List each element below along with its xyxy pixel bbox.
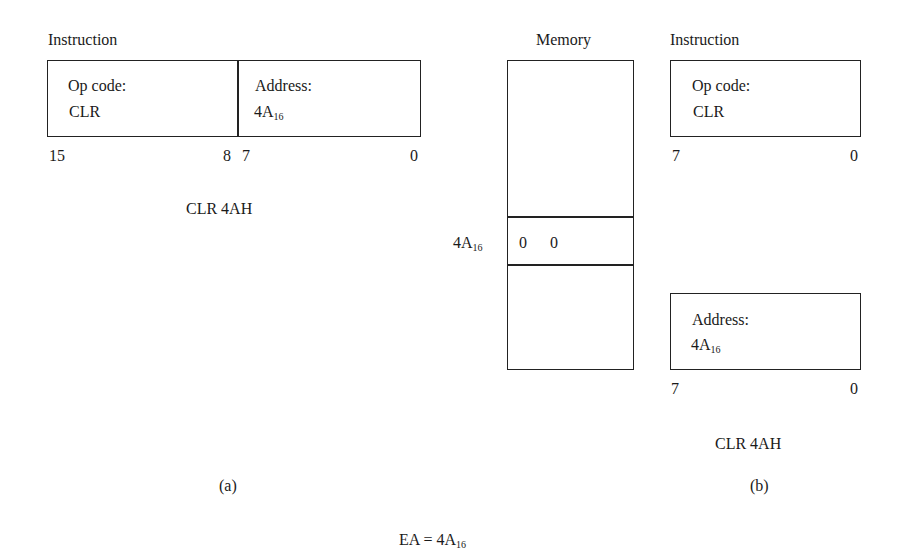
memory-row-value-low: 0 <box>550 233 558 253</box>
memory-row-value-high: 0 <box>519 233 527 253</box>
bit-7-label: 7 <box>242 146 250 166</box>
opcode-value-a: CLR <box>69 102 100 122</box>
opcode-value-b: CLR <box>693 102 724 122</box>
effective-address-equation: EA = 4A16 <box>399 530 466 555</box>
word2-bit-7-label: 7 <box>671 379 679 399</box>
word1-bit-7-label: 7 <box>672 146 680 166</box>
mnemonic-a: CLR 4AH <box>186 199 252 219</box>
instruction-title-a: Instruction <box>48 30 117 50</box>
memory-row-top-border <box>507 216 634 218</box>
word2-bit-0-label: 0 <box>850 379 858 399</box>
bit-15-label: 15 <box>49 146 65 166</box>
opcode-label-a: Op code: <box>68 76 126 96</box>
opcode-label-b: Op code: <box>692 76 750 96</box>
memory-row-address: 4A16 <box>453 233 483 258</box>
memory-row-bottom-border <box>507 264 634 266</box>
memory-title: Memory <box>536 30 591 50</box>
memory-block <box>507 60 634 370</box>
field-divider <box>237 60 239 137</box>
instruction-title-b: Instruction <box>670 30 739 50</box>
instruction-word-16bit <box>47 60 421 137</box>
bit-8-label: 8 <box>223 146 231 166</box>
word1-bit-0-label: 0 <box>850 146 858 166</box>
mnemonic-b: CLR 4AH <box>715 434 781 454</box>
address-label-a: Address: <box>255 76 312 96</box>
address-value-b: 4A16 <box>691 335 721 360</box>
instruction-word-1 <box>670 60 861 137</box>
bit-0-label: 0 <box>410 146 418 166</box>
caption-a: (a) <box>219 476 237 496</box>
address-label-b: Address: <box>692 310 749 330</box>
address-value-a: 4A16 <box>254 102 284 127</box>
caption-b: (b) <box>750 476 769 496</box>
